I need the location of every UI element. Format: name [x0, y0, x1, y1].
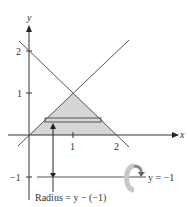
- y-tick-1: 1: [17, 88, 22, 99]
- x-tick-1: 1: [70, 141, 75, 152]
- x-tick-2: 2: [114, 141, 119, 152]
- y-tick-2: 2: [16, 46, 21, 57]
- y-axis-label: y: [26, 12, 32, 23]
- shaded-region: [29, 93, 117, 135]
- x-axis-arrow-icon: [172, 132, 179, 138]
- axis-of-revolution-label: y = −1: [148, 172, 174, 183]
- x-axis-label: x: [179, 129, 185, 140]
- revolution-diagram: x y 2 1 −1 1 2 y = −1 Radius = y − (−1): [0, 0, 188, 207]
- radius-label: Radius = y − (−1): [35, 192, 106, 204]
- y-axis-arrow-icon: [26, 25, 32, 32]
- rotation-arrow-icon: [127, 166, 146, 190]
- y-tick-neg1: −1: [10, 172, 21, 183]
